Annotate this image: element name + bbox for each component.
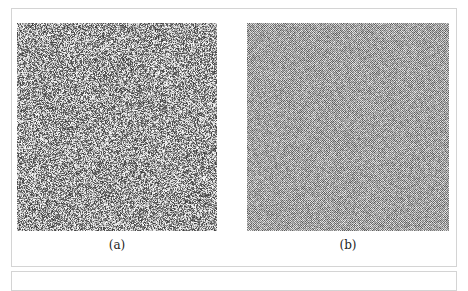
caption-a: (a) [87,238,147,252]
caption-b: (b) [318,238,378,252]
blue-noise-image [247,23,449,231]
next-figure-frame [11,271,457,291]
white-noise-image [17,23,217,231]
